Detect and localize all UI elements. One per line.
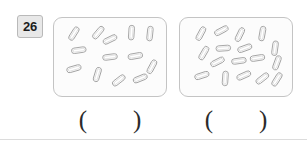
- count-box-right: [179, 17, 293, 97]
- pill-shape: [258, 26, 266, 41]
- paren-close-right: ): [259, 107, 267, 132]
- pill-shape: [146, 59, 158, 74]
- pill-shape: [216, 45, 231, 51]
- pill-shape: [231, 57, 246, 64]
- pill-shape: [132, 73, 148, 84]
- pill-shape: [128, 52, 143, 60]
- answer-slot-right[interactable]: ( ): [179, 104, 293, 134]
- pill-shape: [93, 67, 102, 83]
- pill-shape: [271, 72, 283, 87]
- pill-shape: [111, 74, 126, 87]
- worksheet-page: 26 ( ) ( ): [0, 0, 307, 141]
- pill-shape: [194, 71, 210, 81]
- pill-shape: [71, 46, 86, 53]
- pill-shape: [272, 55, 282, 71]
- pill-shape: [92, 25, 106, 40]
- pill-shape: [271, 41, 278, 56]
- pill-shape: [102, 53, 117, 60]
- pill-shape: [128, 25, 134, 40]
- pill-cluster-left: [54, 18, 166, 96]
- pill-shape: [198, 45, 210, 60]
- answer-slot-left[interactable]: ( ): [53, 104, 167, 134]
- pill-shape: [146, 26, 153, 41]
- paren-open-left: (: [79, 107, 87, 132]
- pill-shape: [222, 71, 228, 86]
- bottom-divider: [0, 139, 307, 140]
- pill-shape: [250, 54, 265, 62]
- pill-shape: [255, 72, 270, 85]
- paren-close-left: ): [133, 107, 141, 132]
- pill-shape: [68, 26, 80, 41]
- pill-shape: [66, 64, 82, 73]
- pill-shape: [210, 56, 226, 68]
- pill-shape: [102, 34, 118, 45]
- pill-shape: [236, 70, 252, 81]
- paren-open-right: (: [205, 107, 213, 132]
- pill-shape: [237, 43, 253, 53]
- pill-shape: [234, 27, 245, 43]
- count-box-left: [53, 17, 167, 97]
- pill-cluster-right: [180, 18, 292, 96]
- question-number-badge: 26: [17, 15, 43, 38]
- pill-shape: [214, 25, 229, 37]
- pill-shape: [195, 26, 207, 41]
